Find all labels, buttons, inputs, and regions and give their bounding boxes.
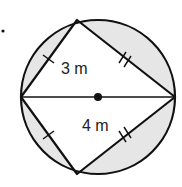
label-long-side: 4 m	[82, 117, 109, 134]
center-point	[94, 93, 102, 101]
label-short-side: 3 m	[61, 60, 88, 77]
list-bullet	[1, 29, 4, 32]
geometry-figure: 3 m 4 m	[0, 0, 182, 187]
